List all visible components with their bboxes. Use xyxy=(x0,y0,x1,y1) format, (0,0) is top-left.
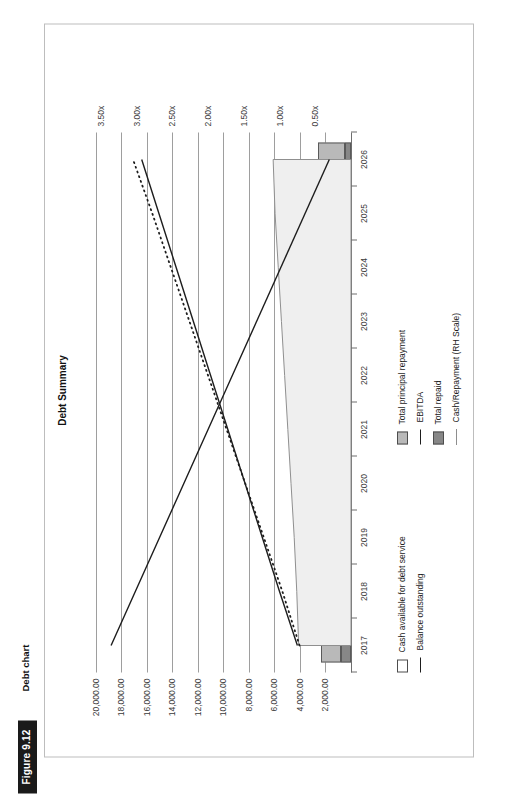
rotated-figure-stage: Figure 9.12 Debt chart Debt Summary 2,00… xyxy=(0,0,508,801)
figure-caption: Debt chart xyxy=(20,644,31,691)
legend-item-total-repaid[interactable]: Total repaid xyxy=(433,214,444,444)
category-label-2022: 2022 xyxy=(359,366,369,385)
category-tick xyxy=(351,455,357,456)
category-label-2024: 2024 xyxy=(359,258,369,277)
category-label-2019: 2019 xyxy=(359,528,369,547)
legend-label: Balance outstanding xyxy=(415,573,425,650)
category-tick xyxy=(351,671,357,672)
category-label-2017: 2017 xyxy=(359,636,369,655)
right-axis-tick-label: 1.00x xyxy=(275,105,285,126)
chart-legend: Cash available for debt serviceTotal pri… xyxy=(393,112,465,672)
legend-swatch-solid-line-icon xyxy=(420,429,421,444)
left-axis-tick-label: 18,000.00 xyxy=(116,678,126,716)
legend-swatch-solid-line-icon xyxy=(420,657,421,672)
left-axis-tick-label: 2,000.00 xyxy=(320,678,330,711)
legend-item-balance-outstanding[interactable]: Balance outstanding xyxy=(415,462,425,672)
legend-swatch-box-dark-gray-icon xyxy=(433,431,444,444)
left-axis-tick-label: 6,000.00 xyxy=(269,678,279,711)
category-label-2021: 2021 xyxy=(359,420,369,439)
legend-swatch-box-light-gray-icon xyxy=(397,431,408,444)
line-cash-repayment-rh-scale xyxy=(133,159,300,645)
category-label-2020: 2020 xyxy=(359,474,369,493)
line-ebitda xyxy=(142,159,298,645)
left-axis-tick-label: 8,000.00 xyxy=(244,678,254,711)
category-label-2018: 2018 xyxy=(359,582,369,601)
category-label-2026: 2026 xyxy=(359,150,369,169)
category-tick xyxy=(351,131,357,132)
legend-item-total-principal-repayment[interactable]: Total principal repayment xyxy=(397,214,408,444)
legend-swatch-box-white-icon xyxy=(397,659,408,672)
category-axis: 2017201820192020202120222023202420252026 xyxy=(351,132,377,672)
left-axis-tick-label: 20,000.00 xyxy=(91,678,101,716)
legend-item-ebitda[interactable]: EBITDA xyxy=(415,214,425,444)
page-root: Figure 9.12 Debt chart Debt Summary 2,00… xyxy=(0,0,508,801)
left-axis-tick-label: 10,000.00 xyxy=(218,678,228,716)
legend-item-cash-available-for-debt-service[interactable]: Cash available for debt service xyxy=(397,462,408,672)
left-axis-tick-label: 12,000.00 xyxy=(193,678,203,716)
legend-label: Total principal repayment xyxy=(397,330,407,425)
legend-swatch-dotted-line-icon xyxy=(456,429,457,444)
right-axis-tick-label: 3.00x xyxy=(132,105,142,126)
category-tick xyxy=(351,239,357,240)
category-tick xyxy=(351,293,357,294)
left-axis-tick-label: 14,000.00 xyxy=(167,678,177,716)
plot-inner: 2,000.004,000.006,000.008,000.0010,000.0… xyxy=(83,132,351,672)
left-axis-tick-label: 16,000.00 xyxy=(142,678,152,716)
right-axis-tick-label: 3.50x xyxy=(96,105,106,126)
category-tick xyxy=(351,401,357,402)
category-tick xyxy=(351,563,357,564)
category-label-2025: 2025 xyxy=(359,204,369,223)
area-cash-available-for-debt-service xyxy=(273,159,351,645)
right-axis-tick-label: 2.50x xyxy=(167,105,177,126)
right-axis-tick-label: 0.50x xyxy=(310,105,320,126)
plot-area: 2,000.004,000.006,000.008,000.0010,000.0… xyxy=(83,132,351,672)
series-overlay xyxy=(83,132,351,672)
legend-label: Total repaid xyxy=(433,380,443,424)
left-axis-tick-label: 4,000.00 xyxy=(295,678,305,711)
category-tick xyxy=(351,347,357,348)
figure-badge: Figure 9.12 xyxy=(18,720,37,793)
right-axis-tick-label: 2.00x xyxy=(203,105,213,126)
chart-title: Debt Summary xyxy=(57,24,68,756)
legend-label: EBITDA xyxy=(415,391,425,422)
chart-frame: Debt Summary 2,000.004,000.006,000.008,0… xyxy=(44,23,474,757)
category-tick xyxy=(351,617,357,618)
legend-label: Cash/Repayment (RH Scale) xyxy=(451,312,461,422)
legend-item-cash-repayment-rh-scale[interactable]: Cash/Repayment (RH Scale) xyxy=(451,214,461,444)
category-tick xyxy=(351,509,357,510)
category-label-2023: 2023 xyxy=(359,312,369,331)
right-axis-tick-label: 1.50x xyxy=(239,105,249,126)
category-tick xyxy=(351,185,357,186)
legend-label: Cash available for debt service xyxy=(397,536,407,652)
